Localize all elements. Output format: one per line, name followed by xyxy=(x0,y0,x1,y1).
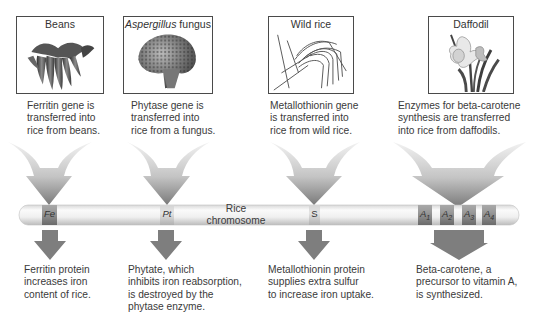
band-symbol: Fe xyxy=(44,208,55,219)
text-line: phytase enzyme. xyxy=(128,301,242,313)
outcome-arrow-ferritin xyxy=(34,230,66,260)
text-line: Ferritin protein xyxy=(24,264,91,276)
band-subscript: 1 xyxy=(426,214,430,221)
text-line: Beta-carotene, a xyxy=(416,264,517,276)
chromosome-label: Rice chromosome xyxy=(206,203,266,227)
band-symbol: S xyxy=(311,208,317,219)
outcome-text-phytate: Phytate, which inhibits iron reabsorptio… xyxy=(128,264,242,314)
transfer-arrow-daffodil xyxy=(393,142,526,207)
band-label-a2: A2 xyxy=(440,208,454,221)
text-line: supplies extra sulfur xyxy=(268,276,374,288)
band-subscript: 3 xyxy=(470,214,474,221)
text-line: inhibits iron reabsorption, xyxy=(128,276,242,288)
band-label-s: S xyxy=(309,208,320,219)
text-line: Phytate, which xyxy=(128,264,242,276)
text-line: precursor to vitamin A, xyxy=(416,276,517,288)
band-subscript: 4 xyxy=(490,214,494,221)
outcome-text-beta-carotene: Beta-carotene, a precursor to vitamin A,… xyxy=(416,264,517,301)
outcome-text-metallothionin: Metallothionin protein supplies extra su… xyxy=(268,264,374,301)
band-label-a3: A3 xyxy=(462,208,476,221)
text-line: content of rice. xyxy=(24,289,91,301)
outcome-arrow-metallothionin xyxy=(298,230,330,260)
band-label-pt: Pt xyxy=(160,208,174,219)
chromosome-label-line2: chromosome xyxy=(206,215,266,227)
band-label-a4: A4 xyxy=(482,208,496,221)
text-line: to increase iron uptake. xyxy=(268,289,374,301)
transfer-arrow-wild-rice xyxy=(270,142,360,205)
text-line: Metallothionin protein xyxy=(268,264,374,276)
text-line: is destroyed by the xyxy=(128,289,242,301)
text-line: increases iron xyxy=(24,276,91,288)
outcome-text-ferritin: Ferritin protein increases iron content … xyxy=(24,264,91,301)
outcome-arrow-beta-carotene xyxy=(430,230,488,260)
chromosome-label-line1: Rice xyxy=(206,203,266,215)
text-line: is synthesized. xyxy=(416,289,517,301)
band-symbol: Pt xyxy=(163,208,172,219)
band-label-fe: Fe xyxy=(42,208,57,219)
band-label-a1: A1 xyxy=(418,208,432,221)
outcome-arrows xyxy=(34,230,488,260)
transfer-arrow-aspergillus xyxy=(127,142,210,205)
outcome-arrow-phytate xyxy=(150,230,182,260)
band-subscript: 2 xyxy=(448,214,452,221)
transfer-arrow-beans xyxy=(8,142,92,205)
